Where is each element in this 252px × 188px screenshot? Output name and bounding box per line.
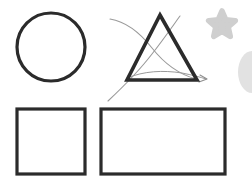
shapes-canvas[interactable]: Shapes Canvas [0, 0, 252, 188]
shapes-canvas-surface[interactable] [0, 0, 252, 188]
